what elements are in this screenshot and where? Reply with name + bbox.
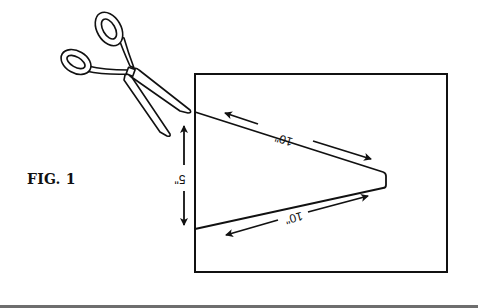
scissors-icon (57, 7, 191, 136)
diagram-canvas: 10" 10" 5" (0, 0, 478, 308)
paper-sheet (195, 74, 447, 272)
figure-caption: FIG. 1 (27, 171, 76, 187)
top-edge-dimension (225, 113, 371, 159)
cut-outline (195, 112, 386, 229)
top-edge-label: 10" (273, 131, 294, 150)
bottom-edge-label: 10" (284, 209, 305, 227)
base-width-label: 5" (175, 172, 186, 186)
